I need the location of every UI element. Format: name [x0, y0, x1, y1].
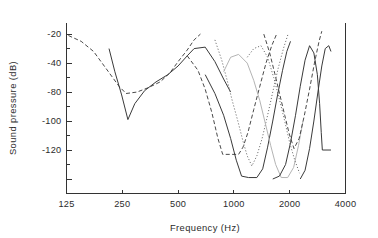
curve-3-dashed-mid	[187, 34, 276, 154]
y-axis-tick-labels: -20-40-80-100-120	[42, 29, 62, 155]
x-tick-label: 125	[58, 199, 74, 209]
chart-svg: -20-40-80-100-120 125250500100020004000 …	[0, 0, 378, 238]
y-tick-label: -80	[47, 87, 61, 97]
x-axis-title: Frequency (Hz)	[170, 222, 240, 233]
y-tick-label: -120	[42, 145, 62, 155]
y-axis-title: Sound pressure (dB)	[7, 61, 18, 155]
y-axis-ticks	[67, 34, 72, 179]
chart-curves	[68, 31, 331, 179]
x-tick-label: 2000	[279, 199, 301, 209]
x-axis-tick-labels: 125250500100020004000	[58, 199, 356, 209]
x-tick-label: 500	[170, 199, 186, 209]
x-tick-label: 250	[114, 199, 130, 209]
chart-figure: -20-40-80-100-120 125250500100020004000 …	[0, 0, 378, 238]
x-tick-label: 1000	[223, 199, 245, 209]
y-tick-label: -20	[47, 29, 61, 39]
x-tick-label: 4000	[335, 199, 357, 209]
x-axis-ticks	[67, 190, 346, 194]
y-tick-label: -100	[42, 116, 62, 126]
y-tick-label: -40	[47, 58, 61, 68]
curve-2-solid-low	[109, 47, 231, 119]
